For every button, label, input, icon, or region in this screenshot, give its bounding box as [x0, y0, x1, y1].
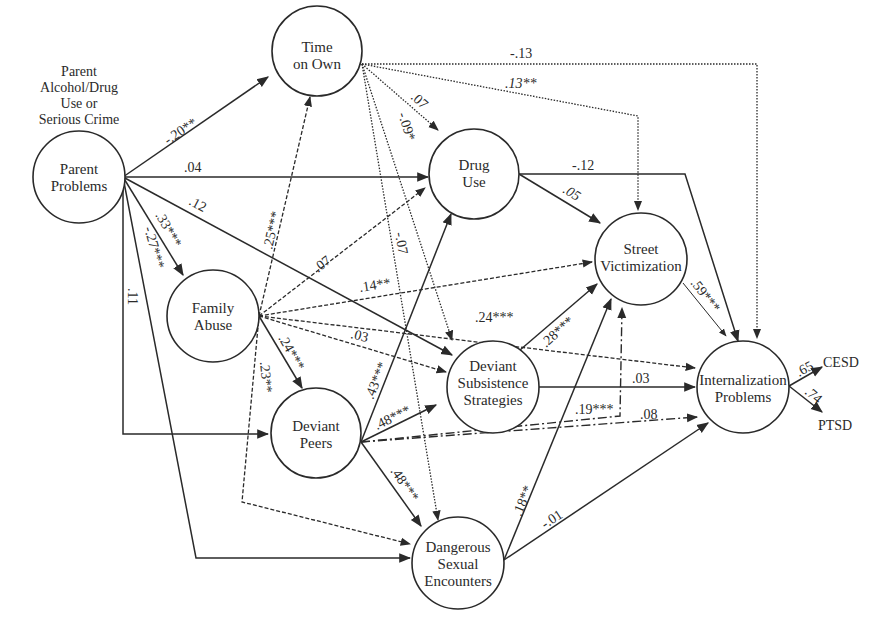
path-internalization-to-ptsd: .74 — [789, 384, 825, 412]
path-diagram: -.20** .04 .12 .33*** -.27*** .11 -.13 .… — [0, 0, 880, 633]
coef-label: .11 — [125, 288, 140, 305]
coef-label: .65 — [793, 358, 815, 379]
exogenous-label-line: Use or — [61, 96, 98, 111]
coef-label: .48*** — [388, 464, 422, 504]
node-label: Encounters — [424, 573, 492, 589]
node-deviant-peers: Deviant Peers — [271, 388, 361, 478]
node-label: Strategies — [463, 392, 522, 408]
node-label: Problems — [51, 178, 108, 194]
coef-label: -.07 — [392, 231, 411, 255]
exogenous-label-line: Alcohol/Drug — [40, 80, 118, 95]
coef-label: .04 — [184, 160, 202, 175]
node-label: Sexual — [438, 556, 479, 572]
indicator-cesd: CESD — [823, 355, 859, 370]
path-druguse-to-street: .05 — [519, 174, 600, 223]
node-label: Time — [301, 39, 332, 55]
node-street-victimization: Street Victimization — [595, 213, 687, 305]
node-label: Use — [462, 174, 486, 190]
coef-label: .24*** — [475, 310, 514, 325]
node-label: Victimization — [600, 258, 682, 274]
node-family-abuse: Family Abuse — [167, 270, 259, 362]
coef-label: .13** — [505, 76, 537, 91]
node-internalization: Internalization Problems — [697, 341, 789, 433]
node-drug-use: Drug Use — [429, 129, 519, 219]
exogenous-label-line: Parent — [61, 64, 97, 79]
path-familyabuse-to-street: .14** — [259, 262, 592, 316]
node-dangerous-sexual: Dangerous Sexual Encounters — [412, 517, 504, 609]
node-deviant-subsistence: Deviant Subsistence Strategies — [447, 341, 539, 433]
node-label: Problems — [715, 389, 772, 405]
path-subsistence-to-street: .28*** — [520, 284, 597, 350]
node-label: Abuse — [194, 317, 233, 333]
node-label: Dangerous — [426, 539, 491, 555]
coef-label: .23** — [257, 361, 275, 394]
coef-label: -.20** — [161, 115, 199, 148]
path-parent-to-druguse: .04 — [123, 160, 428, 177]
node-label: Drug — [459, 157, 490, 173]
coef-label: -.13 — [510, 46, 532, 61]
coef-label: .08 — [640, 407, 658, 422]
coef-label: .12 — [187, 193, 209, 214]
node-label: Deviant — [469, 358, 517, 374]
coef-label: -.01 — [538, 507, 565, 532]
node-label: Deviant — [292, 418, 340, 434]
coef-label: .25*** — [260, 210, 283, 251]
coef-label: -.12 — [572, 158, 594, 173]
node-label: Internalization — [699, 372, 787, 388]
coef-label: .19*** — [575, 402, 614, 417]
node-label: Parent — [60, 161, 99, 177]
node-label: Family — [192, 300, 235, 316]
exogenous-label-line: Serious Crime — [39, 112, 120, 127]
path-internalization-to-cesd: .65 — [789, 358, 822, 386]
coef-label: .18** — [510, 483, 536, 518]
coef-label: .07 — [311, 253, 334, 276]
node-label: Peers — [300, 435, 333, 451]
node-label: Subsistence — [458, 375, 529, 391]
coef-label: .48*** — [372, 402, 413, 432]
coef-label: .03 — [632, 371, 650, 386]
node-label: Street — [624, 241, 660, 257]
path-dangerous-to-internalization: -.01 — [504, 423, 708, 560]
coef-label: .07 — [408, 89, 431, 112]
node-label: on Own — [293, 56, 341, 72]
coef-label: .74 — [802, 384, 825, 407]
node-time-on-own: Time on Own — [272, 6, 362, 96]
path-peers-to-dangerous: .48*** — [361, 442, 422, 526]
indicator-ptsd: PTSD — [818, 418, 852, 433]
coef-label: .03 — [349, 326, 370, 345]
coef-label: -.09* — [395, 110, 418, 142]
path-subsistence-to-internalization: .03 — [539, 371, 695, 387]
coef-label: .14** — [358, 275, 391, 295]
node-parent-problems: Parent Problems — [33, 131, 125, 223]
